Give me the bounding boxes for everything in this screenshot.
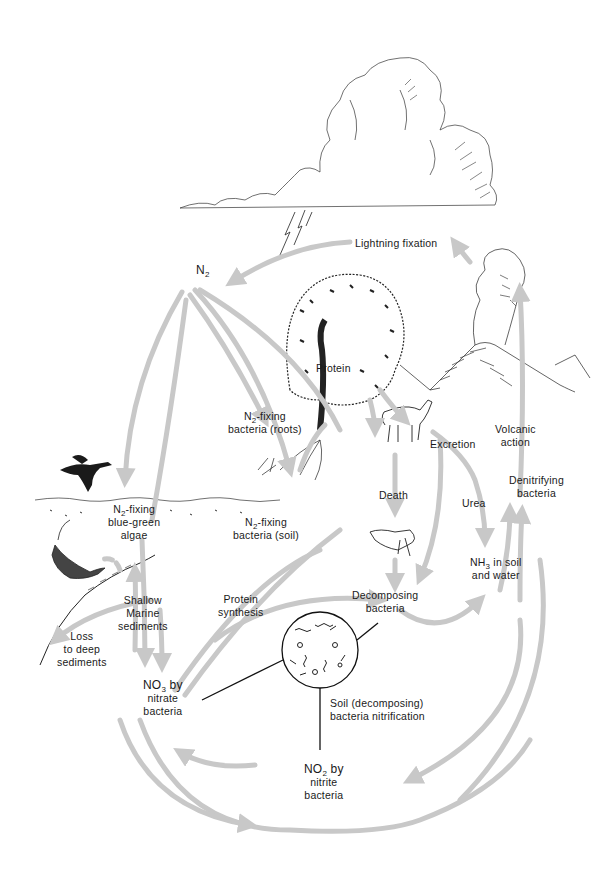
- bird-icon: [60, 455, 112, 492]
- label-death: Death: [379, 489, 408, 502]
- algae-line3: algae: [108, 529, 160, 542]
- text: NO: [304, 762, 322, 776]
- text: by: [327, 762, 344, 776]
- text: -fixing: [256, 410, 285, 422]
- n2-text: N: [196, 263, 205, 277]
- label-protein: Protein: [316, 362, 351, 375]
- protein-synthesis-line2: synthesis: [218, 606, 264, 619]
- volcanic-line1: Volcanic: [495, 423, 536, 436]
- shallow-line2: Marine: [118, 607, 168, 620]
- no3-line3: bacteria: [143, 705, 183, 718]
- volcano-icon: [400, 249, 590, 392]
- label-soil-nitrification: Soil (decomposing) bacteria nitrificatio…: [330, 697, 425, 723]
- decomposing-line1: Decomposing: [352, 589, 418, 602]
- label-lightning-fixation: Lightning fixation: [355, 237, 437, 250]
- text: -fixing: [258, 516, 287, 528]
- text: by: [166, 678, 183, 692]
- no3-line2: nitrate: [143, 692, 183, 705]
- soil-nitrification-line1: Soil (decomposing): [330, 697, 425, 710]
- denitrifying-line2: bacteria: [509, 487, 564, 500]
- label-loss-to-deep-sediments: Loss to deep sediments: [57, 630, 107, 669]
- loss-line3: sediments: [57, 656, 107, 669]
- text: N: [244, 410, 252, 422]
- dead-animal-icon: [370, 530, 415, 556]
- label-urea: Urea: [462, 497, 486, 510]
- n2-fixing-soil-line2: bacteria (soil): [233, 529, 299, 542]
- nh3-line1: NH3 in soil: [470, 556, 522, 569]
- loss-line1: Loss: [57, 630, 107, 643]
- label-blue-green-algae: N2-fixing blue-green algae: [108, 503, 160, 542]
- cloud-icon: [180, 58, 497, 209]
- fish-icon: [52, 520, 105, 579]
- text: N: [245, 516, 253, 528]
- denitrifying-line1: Denitrifying: [509, 474, 564, 487]
- label-no2-nitrite-bacteria: NO2 by nitrite bacteria: [304, 763, 344, 802]
- text: in soil: [490, 556, 521, 568]
- no2-line2: nitrite: [304, 776, 344, 789]
- label-shallow-marine-sediments: Shallow Marine sediments: [118, 594, 168, 633]
- label-protein-synthesis: Protein synthesis: [218, 593, 264, 619]
- nh3-line2: and water: [470, 569, 522, 582]
- label-n2-fixing-soil: N2-fixing bacteria (soil): [233, 516, 299, 542]
- label-no3-nitrate-bacteria: NO3 by nitrate bacteria: [143, 679, 183, 718]
- no2-line1: NO2 by: [304, 763, 344, 776]
- soil-nitrification-line2: bacteria nitrification: [330, 710, 425, 723]
- text: N: [113, 503, 121, 515]
- label-nh3-soil-water: NH3 in soil and water: [470, 556, 522, 582]
- label-n2: N2: [196, 264, 210, 277]
- no3-line1: NO3 by: [143, 679, 183, 692]
- label-decomposing-bacteria: Decomposing bacteria: [352, 589, 418, 615]
- label-excretion: Excretion: [430, 438, 476, 451]
- n2-fixing-roots-line2: bacteria (roots): [228, 423, 302, 436]
- decomposing-line2: bacteria: [352, 602, 418, 615]
- text: -fixing: [126, 503, 155, 515]
- tree-icon: [287, 274, 404, 430]
- algae-line2: blue-green: [108, 516, 160, 529]
- loss-line2: to deep: [57, 643, 107, 656]
- n2-fixing-soil-line1: N2-fixing: [233, 516, 299, 529]
- volcanic-line2: action: [495, 436, 536, 449]
- shallow-line1: Shallow: [118, 594, 168, 607]
- n2-subscript: 2: [205, 270, 210, 279]
- label-n2-fixing-roots: N2-fixing bacteria (roots): [228, 410, 302, 436]
- shallow-line3: sediments: [118, 620, 168, 633]
- label-volcanic-action: Volcanic action: [495, 423, 536, 449]
- n2-fixing-roots-line1: N2-fixing: [228, 410, 302, 423]
- no2-line3: bacteria: [304, 789, 344, 802]
- text: NH: [470, 556, 486, 568]
- algae-line1: N2-fixing: [108, 503, 160, 516]
- protein-synthesis-line1: Protein: [218, 593, 264, 606]
- label-denitrifying-bacteria: Denitrifying bacteria: [509, 474, 564, 500]
- text: NO: [143, 678, 161, 692]
